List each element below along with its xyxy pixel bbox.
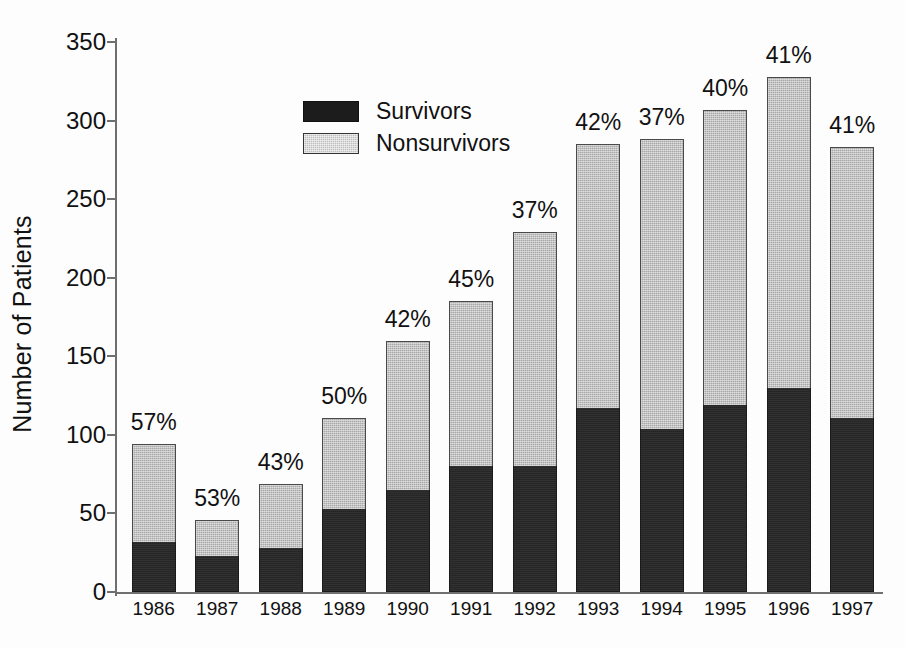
bar-percentage-label: 37% bbox=[639, 104, 685, 131]
bar-segment-nonsurvivors[interactable] bbox=[195, 520, 239, 556]
x-axis-line bbox=[115, 592, 883, 594]
stacked-bar-chart: Number of Patients 050100150200250300350… bbox=[0, 0, 905, 648]
chart-legend: SurvivorsNonsurvivors bbox=[303, 98, 510, 157]
y-axis-title: Number of Patients bbox=[0, 0, 44, 648]
bar-segment-survivors[interactable] bbox=[640, 429, 684, 592]
y-axis-tick-label: 200 bbox=[66, 264, 106, 292]
bar-segment-survivors[interactable] bbox=[449, 466, 493, 592]
bar-segment-survivors[interactable] bbox=[195, 556, 239, 592]
y-axis-tick-label: 250 bbox=[66, 185, 106, 213]
x-axis-tick-label: 1994 bbox=[641, 598, 683, 620]
bar-segment-nonsurvivors[interactable] bbox=[513, 232, 557, 466]
bar-percentage-label: 41% bbox=[829, 112, 875, 139]
bar-percentage-label: 41% bbox=[766, 42, 812, 69]
bar-segment-survivors[interactable] bbox=[767, 388, 811, 592]
bar-percentage-label: 45% bbox=[448, 266, 494, 293]
y-axis-tick-mark bbox=[107, 591, 116, 593]
bar-group[interactable]: 37%1994 bbox=[640, 42, 684, 592]
bar-segment-nonsurvivors[interactable] bbox=[449, 301, 493, 466]
bar-percentage-label: 50% bbox=[321, 383, 367, 410]
y-axis-tick-mark bbox=[107, 434, 116, 436]
y-axis-tick-label: 300 bbox=[66, 107, 106, 135]
bar-segment-nonsurvivors[interactable] bbox=[132, 444, 176, 541]
bar-group[interactable]: 40%1995 bbox=[703, 42, 747, 592]
y-axis-tick-mark bbox=[107, 198, 116, 200]
bar-segment-nonsurvivors[interactable] bbox=[259, 484, 303, 548]
x-axis-tick-label: 1996 bbox=[768, 598, 810, 620]
y-axis-tick-mark bbox=[107, 120, 116, 122]
y-axis-tick-label: 150 bbox=[66, 342, 106, 370]
x-axis-tick-label: 1991 bbox=[450, 598, 492, 620]
x-axis-tick-label: 1986 bbox=[133, 598, 175, 620]
gray-hatched-swatch bbox=[303, 133, 359, 154]
bar-segment-survivors[interactable] bbox=[259, 548, 303, 592]
bar-group[interactable]: 43%1988 bbox=[259, 42, 303, 592]
bar-percentage-label: 43% bbox=[258, 449, 304, 476]
bar-percentage-label: 42% bbox=[575, 109, 621, 136]
bar-group[interactable]: 41%1997 bbox=[830, 42, 874, 592]
bar-segment-nonsurvivors[interactable] bbox=[640, 139, 684, 428]
bar-stack[interactable] bbox=[513, 232, 557, 592]
bar-segment-nonsurvivors[interactable] bbox=[322, 418, 366, 509]
bar-group[interactable]: 53%1987 bbox=[195, 42, 239, 592]
bar-stack[interactable] bbox=[767, 77, 811, 592]
bar-segment-survivors[interactable] bbox=[386, 490, 430, 592]
bar-segment-nonsurvivors[interactable] bbox=[830, 147, 874, 417]
y-axis-tick-mark bbox=[107, 512, 116, 514]
bar-segment-survivors[interactable] bbox=[830, 418, 874, 592]
y-axis-tick-label: 0 bbox=[93, 578, 106, 606]
bar-segment-nonsurvivors[interactable] bbox=[386, 341, 430, 490]
x-axis-tick-label: 1988 bbox=[260, 598, 302, 620]
bar-segment-nonsurvivors[interactable] bbox=[767, 77, 811, 388]
bar-percentage-label: 40% bbox=[702, 75, 748, 102]
bar-stack[interactable] bbox=[386, 341, 430, 592]
bar-segment-survivors[interactable] bbox=[132, 542, 176, 592]
legend-item-label: Nonsurvivors bbox=[376, 130, 510, 157]
bar-segment-nonsurvivors[interactable] bbox=[576, 144, 620, 408]
bar-stack[interactable] bbox=[576, 144, 620, 592]
bar-stack[interactable] bbox=[322, 418, 366, 592]
y-axis-tick-label: 350 bbox=[66, 28, 106, 56]
x-axis-tick-label: 1992 bbox=[514, 598, 556, 620]
x-axis-tick-label: 1993 bbox=[577, 598, 619, 620]
solid-black-swatch bbox=[303, 101, 359, 122]
legend-item[interactable]: Nonsurvivors bbox=[303, 130, 510, 157]
y-axis-tick-label: 50 bbox=[79, 499, 106, 527]
bar-stack[interactable] bbox=[640, 139, 684, 592]
y-axis-tick-mark bbox=[107, 277, 116, 279]
bar-stack[interactable] bbox=[132, 444, 176, 592]
bar-stack[interactable] bbox=[830, 147, 874, 592]
bar-percentage-label: 53% bbox=[194, 485, 240, 512]
bar-group[interactable]: 42%1993 bbox=[576, 42, 620, 592]
bar-stack[interactable] bbox=[703, 110, 747, 592]
bar-stack[interactable] bbox=[195, 520, 239, 592]
bar-group[interactable]: 37%1992 bbox=[513, 42, 557, 592]
legend-item[interactable]: Survivors bbox=[303, 98, 510, 125]
bar-percentage-label: 57% bbox=[131, 409, 177, 436]
y-axis-tick-mark bbox=[107, 41, 116, 43]
y-axis-tick-mark bbox=[107, 355, 116, 357]
bar-percentage-label: 37% bbox=[512, 197, 558, 224]
bar-segment-survivors[interactable] bbox=[513, 466, 557, 592]
bar-percentage-label: 42% bbox=[385, 306, 431, 333]
x-axis-tick-label: 1990 bbox=[387, 598, 429, 620]
bar-segment-survivors[interactable] bbox=[322, 509, 366, 592]
x-axis-tick-label: 1989 bbox=[323, 598, 365, 620]
legend-item-label: Survivors bbox=[376, 98, 472, 125]
bar-group[interactable]: 41%1996 bbox=[767, 42, 811, 592]
bar-segment-survivors[interactable] bbox=[703, 405, 747, 592]
x-axis-tick-label: 1987 bbox=[196, 598, 238, 620]
bar-segment-survivors[interactable] bbox=[576, 408, 620, 592]
x-axis-tick-label: 1997 bbox=[831, 598, 873, 620]
bar-segment-nonsurvivors[interactable] bbox=[703, 110, 747, 405]
plot-area: 050100150200250300350 57%198653%198743%1… bbox=[118, 42, 880, 592]
x-axis-tick-label: 1995 bbox=[704, 598, 746, 620]
bar-stack[interactable] bbox=[259, 484, 303, 592]
bar-group[interactable]: 57%1986 bbox=[132, 42, 176, 592]
y-axis-tick-label: 100 bbox=[66, 421, 106, 449]
bar-stack[interactable] bbox=[449, 301, 493, 592]
